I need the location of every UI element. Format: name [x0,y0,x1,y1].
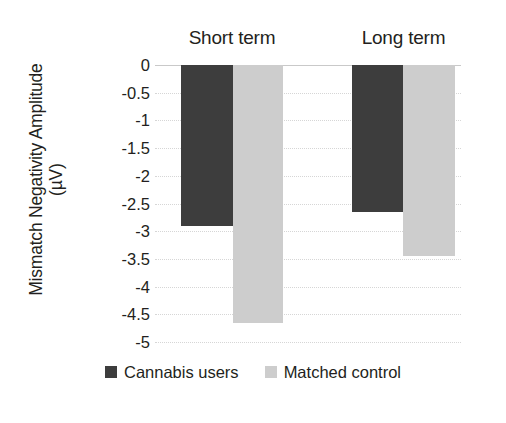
y-axis-title: Mismatch Negativity Amplitude (µV) [0,0,92,360]
dark-swatch-icon [105,366,117,378]
bar-long-term-cannabis-users [352,65,403,212]
y-tick-label: -1.5 [92,140,150,157]
y-tick-label: -5 [92,334,150,351]
legend-item-matched-control: Matched control [265,364,401,381]
gridline--4 [155,287,461,288]
gridline--4.5 [155,314,461,315]
y-axis-tick-labels: 0-0.5-1-1.5-2-2.5-3-3.5-4-4.5-5 [92,0,150,423]
y-tick-label: -2 [92,168,150,185]
legend-label: Matched control [284,364,401,381]
y-tick-label: -0.5 [92,84,150,101]
y-tick-label: -3 [92,223,150,240]
bar-short-term-cannabis-users [181,65,233,226]
plot-area [155,65,461,342]
chart-legend: Cannabis usersMatched control [0,364,506,381]
y-axis-title-line2: (µV) [46,64,66,296]
y-tick-label: -2.5 [92,195,150,212]
legend-label: Cannabis users [124,364,239,381]
y-tick-label: -4.5 [92,306,150,323]
y-tick-label: -4 [92,278,150,295]
bar-short-term-matched-control [233,65,283,323]
gridline--3.5 [155,259,461,260]
bar-long-term-matched-control [403,65,455,256]
category-label-long-term: Long term [352,28,455,47]
y-tick-label: -1 [92,112,150,129]
category-label-short-term: Short term [181,28,283,47]
legend-item-cannabis-users: Cannabis users [105,364,239,381]
y-tick-label: 0 [92,57,150,74]
y-tick-label: -3.5 [92,251,150,268]
gridline--5 [155,342,461,343]
y-axis-title-line1: Mismatch Negativity Amplitude [26,64,46,296]
bar-chart-figure: Mismatch Negativity Amplitude (µV) 0-0.5… [0,0,506,423]
light-swatch-icon [265,366,277,378]
